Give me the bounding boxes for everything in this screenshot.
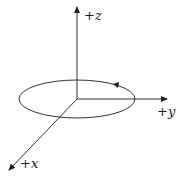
z-axis-label: +z bbox=[84, 8, 102, 23]
loop-direction-arrow-icon bbox=[113, 82, 119, 88]
y-axis-label: +y bbox=[157, 104, 175, 119]
x-axis-label: +x bbox=[20, 156, 38, 171]
